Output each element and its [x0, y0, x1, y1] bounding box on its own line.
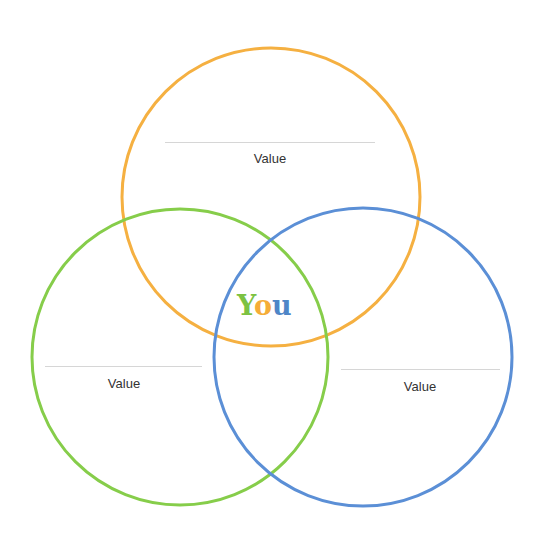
you-letter-y: Y — [237, 290, 254, 321]
center-you-label: You — [237, 292, 292, 319]
venn-diagram — [0, 0, 542, 544]
value-line-left — [45, 366, 202, 367]
value-label-left: Value — [108, 376, 140, 391]
value-line-top — [165, 142, 375, 143]
circle-left — [32, 209, 328, 505]
value-line-right — [341, 369, 500, 370]
you-letter-o: o — [254, 290, 272, 321]
circle-right — [214, 208, 512, 506]
you-letter-u: u — [272, 290, 292, 321]
value-label-right: Value — [404, 379, 436, 394]
value-label-top: Value — [254, 151, 286, 166]
